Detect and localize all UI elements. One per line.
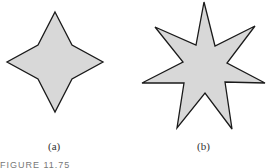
panel-b-label: (b) — [197, 140, 210, 152]
panel-a-label: (a) — [48, 140, 60, 152]
four-pointed-star — [7, 12, 103, 112]
seven-pointed-star — [142, 2, 265, 129]
figure-canvas — [0, 0, 266, 168]
figure-caption: FIGURE 11.75 — [0, 160, 70, 168]
